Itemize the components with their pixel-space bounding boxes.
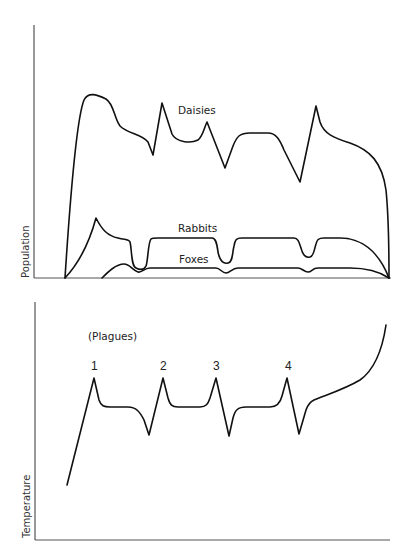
population-chart: Daisies Rabbits Foxes Population: [20, 25, 391, 278]
temperature-chart: (Plagues) 1 2 3 4 Temperature: [21, 302, 390, 540]
plague-number-3: 3: [213, 359, 220, 373]
population-axis-label: Population: [20, 225, 31, 278]
foxes-label: Foxes: [179, 253, 209, 265]
temperature-axis-label: Temperature: [21, 475, 32, 539]
rabbits-label: Rabbits: [178, 222, 217, 234]
temperature-curve: [67, 325, 386, 485]
plague-number-4: 4: [285, 359, 292, 373]
rabbits-curve: [65, 218, 389, 278]
daisies-label: Daisies: [178, 104, 216, 116]
plague-number-1: 1: [91, 359, 98, 373]
plague-number-2: 2: [160, 359, 167, 373]
plagues-label: (Plagues): [88, 330, 137, 342]
diagram-canvas: Daisies Rabbits Foxes Population (Plague…: [0, 0, 405, 546]
daisies-curve: [65, 95, 389, 278]
